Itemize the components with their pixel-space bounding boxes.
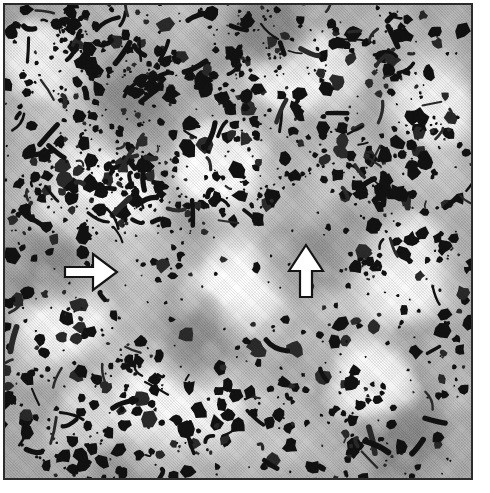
- micrograph-image: [5, 5, 471, 478]
- micrograph-frame: [3, 3, 473, 480]
- figure-root: [0, 0, 490, 493]
- figure-caption: [3, 483, 473, 491]
